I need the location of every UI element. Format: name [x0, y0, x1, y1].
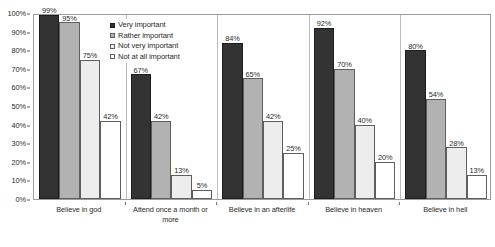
y-axis-tick-label: 60% — [12, 85, 27, 92]
y-axis-tick-label: 10% — [12, 178, 27, 185]
legend-swatch-icon — [110, 54, 115, 59]
y-axis-tick-label: 0% — [16, 196, 26, 203]
legend-item-label: Not at all important — [118, 53, 180, 61]
y-axis-tick-label: 70% — [12, 66, 27, 73]
bar-slot: 99% — [39, 15, 59, 199]
bar[interactable]: 99% — [39, 15, 59, 199]
y-axis-tick-mark — [27, 107, 30, 108]
y-axis-tick-label: 80% — [12, 47, 27, 54]
bar[interactable]: 95% — [59, 22, 79, 199]
bar-value-label: 13% — [174, 167, 189, 174]
legend-item-label: Very important — [118, 21, 166, 29]
bar-value-label: 84% — [225, 35, 240, 42]
y-axis-tick-mark — [27, 181, 30, 182]
y-axis-tick-mark — [27, 88, 30, 89]
bar[interactable]: 70% — [334, 69, 354, 199]
y-axis-tick-mark — [27, 69, 30, 70]
legend-swatch-icon — [110, 23, 115, 28]
bar[interactable]: 92% — [314, 28, 334, 199]
bar[interactable]: 54% — [426, 99, 446, 199]
bar[interactable]: 75% — [80, 60, 100, 200]
bar[interactable]: 42% — [263, 121, 283, 199]
bar[interactable]: 42% — [100, 121, 120, 199]
bar-slot: 95% — [59, 15, 79, 199]
y-axis-tick-mark — [27, 125, 30, 126]
bar[interactable]: 80% — [405, 50, 425, 199]
legend-item[interactable]: Not at all important — [110, 52, 180, 63]
bar-value-label: 40% — [358, 117, 373, 124]
bar-slot: 13% — [467, 15, 487, 199]
chart-legend: Very importantRather importantNot very i… — [108, 19, 182, 63]
x-axis-category-label: Believe in hell — [399, 205, 491, 215]
bar-slot: 28% — [446, 15, 466, 199]
y-axis-tick-label: 30% — [12, 140, 27, 147]
bar-value-label: 80% — [408, 43, 423, 50]
bar-value-label: 75% — [83, 52, 98, 59]
bar-slot: 40% — [355, 15, 375, 199]
y-axis-tick-label: 20% — [12, 159, 27, 166]
bar-value-label: 65% — [246, 71, 261, 78]
legend-item-label: Rather important — [118, 32, 173, 40]
x-axis-category-label: Believe in god — [33, 205, 125, 215]
bar-slot: 54% — [426, 15, 446, 199]
legend-swatch-icon — [110, 44, 115, 49]
bar-slot: 42% — [263, 15, 283, 199]
bar[interactable]: 13% — [467, 175, 487, 199]
y-axis-tick-mark — [27, 51, 30, 52]
legend-item-label: Not very important — [118, 42, 178, 50]
x-axis: Believe in godAttend once a month or mor… — [33, 202, 491, 242]
legend-item[interactable]: Very important — [110, 20, 180, 31]
bar-group-bars: 80%54%28%13% — [400, 15, 492, 199]
bar-value-label: 5% — [197, 182, 207, 189]
bar-slot: 25% — [283, 15, 303, 199]
y-axis-tick-mark — [27, 32, 30, 33]
bar-value-label: 70% — [337, 61, 352, 68]
bar[interactable]: 28% — [446, 147, 466, 199]
y-axis-tick-mark — [27, 162, 30, 163]
bar-slot: 75% — [80, 15, 100, 199]
y-axis-tick-label: 40% — [12, 122, 27, 129]
plot-area: 99%95%75%42%67%42%13%5%84%65%42%25%92%70… — [33, 14, 491, 200]
bar[interactable]: 67% — [131, 74, 151, 199]
bar[interactable]: 84% — [222, 43, 242, 199]
legend-item[interactable]: Not very important — [110, 41, 180, 52]
bar-group-bars: 92%70%40%20% — [309, 15, 401, 199]
bar-value-label: 42% — [266, 113, 281, 120]
bar-value-label: 92% — [317, 20, 332, 27]
bar-slot: 92% — [314, 15, 334, 199]
bar-slot: 65% — [243, 15, 263, 199]
bar[interactable]: 5% — [192, 190, 212, 199]
x-axis-category-label: Attend once a month or more — [125, 205, 217, 225]
y-axis-tick-mark — [27, 200, 30, 201]
bar-slot: 80% — [405, 15, 425, 199]
bar[interactable]: 42% — [151, 121, 171, 199]
bar-slot: 20% — [375, 15, 395, 199]
bar-group: 84%65%42%25% — [217, 15, 309, 199]
y-axis-tick-label: 50% — [12, 103, 27, 110]
y-axis-tick-mark — [27, 14, 30, 15]
group-separator — [400, 15, 401, 199]
bar-slot: 5% — [192, 15, 212, 199]
group-separator — [309, 15, 310, 199]
bar-value-label: 67% — [134, 67, 149, 74]
bar[interactable]: 20% — [375, 162, 395, 199]
bar-value-label: 42% — [154, 113, 169, 120]
bar-slot: 84% — [222, 15, 242, 199]
bar[interactable]: 13% — [171, 175, 191, 199]
y-axis: 100%90%80%70%60%50%40%30%20%10%0% — [0, 14, 30, 200]
y-axis-tick-label: 90% — [12, 29, 27, 36]
bar-group-bars: 84%65%42%25% — [217, 15, 309, 199]
legend-item[interactable]: Rather important — [110, 31, 180, 42]
bar[interactable]: 25% — [283, 153, 303, 200]
bar-value-label: 95% — [62, 15, 77, 22]
bar-group: 80%54%28%13% — [400, 15, 492, 199]
bar-chart: 100%90%80%70%60%50%40%30%20%10%0% 99%95%… — [0, 0, 495, 247]
bar-value-label: 25% — [286, 145, 301, 152]
group-separator — [217, 15, 218, 199]
bar[interactable]: 40% — [355, 125, 375, 199]
bar-value-label: 42% — [103, 113, 118, 120]
x-axis-category-label: Believe in an afterlife — [216, 205, 308, 215]
bar[interactable]: 65% — [243, 78, 263, 199]
legend-swatch-icon — [110, 33, 115, 38]
y-axis-tick-label: 100% — [7, 10, 26, 17]
